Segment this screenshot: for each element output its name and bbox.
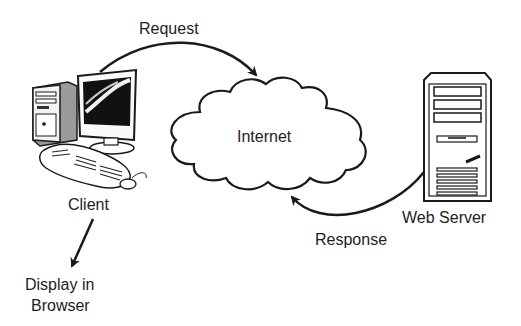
display-arrow <box>72 219 93 266</box>
diagram-canvas: Request Internet Client Web Server Respo… <box>0 0 521 326</box>
internet-label: Internet <box>237 128 291 146</box>
web-server-label: Web Server <box>402 209 486 227</box>
request-label: Request <box>139 20 199 38</box>
response-label: Response <box>315 231 387 249</box>
display-label-line2: Browser <box>31 297 90 315</box>
server-tower-icon <box>424 73 491 201</box>
client-label: Client <box>68 196 109 214</box>
display-label-line1: Display in <box>25 276 94 294</box>
request-arrow <box>100 43 256 75</box>
desktop-computer-icon <box>33 70 146 189</box>
